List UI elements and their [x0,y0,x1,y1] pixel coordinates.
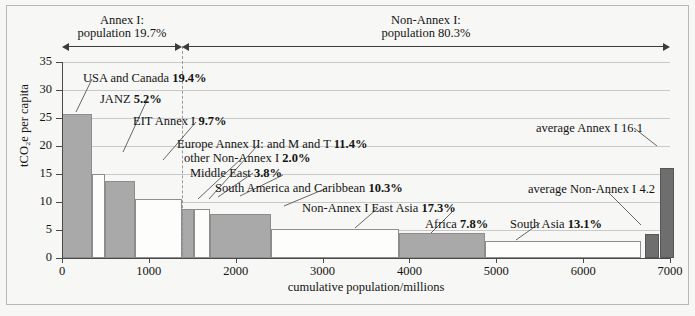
y-tick-5 [56,230,62,231]
bracket-label-line2-annex-i: population 19.7% [62,27,182,40]
callout-africa-share: 7.8% [460,217,488,231]
bar-europe-annex-ii-and-m-and-t [135,199,182,258]
callout-middle-east: Middle East 3.8% [190,167,282,180]
gridline-35 [62,62,670,63]
x-tick-1000 [149,258,150,263]
bar-south-asia [485,241,641,258]
callout-avg-nonannex1: average Non-Annex I 4.2 [528,183,655,196]
x-tick-label-2000: 2000 [206,264,266,279]
callout-usa-canada-share: 19.4% [172,71,206,85]
bracket-arrowhead-left-non-annex-i [182,43,189,51]
callout-usa-canada: USA and Canada 19.4% [83,72,207,85]
bracket-arrowhead-left-annex-i [62,43,69,51]
callout-south-america-share: 10.3% [368,181,402,195]
bracket-line-non-annex-i [188,46,664,47]
bracket-line-annex-i [68,46,176,47]
y-tick-30 [56,90,62,91]
x-tick-4000 [409,258,410,263]
x-axis [62,258,671,259]
bar-other-non-annex-i [182,209,194,258]
x-tick-3000 [323,258,324,263]
callout-europe-share: 11.4% [334,137,368,151]
bar-africa [399,233,485,258]
y-tick-label-5: 5 [10,223,52,236]
x-tick-label-4000: 4000 [379,264,439,279]
callout-janz-share: 5.2% [134,92,162,106]
callout-south-asia-share: 13.1% [568,217,602,231]
x-tick-6000 [583,258,584,263]
x-tick-5000 [496,258,497,263]
bar-eit-annex-i [105,181,135,258]
bracket-label-annex-i: Annex I:population 19.7% [62,14,182,40]
bracket-arrowhead-right-non-annex-i [663,43,670,51]
bar-janz [92,174,106,258]
y-axis [62,62,63,259]
y-tick-35 [56,62,62,63]
x-tick-label-1000: 1000 [119,264,179,279]
bar-average-non-annex-i [645,234,659,258]
bar-average-annex-i [660,168,674,258]
x-tick-label-5000: 5000 [466,264,526,279]
bracket-label-non-annex-i: Non-Annex I:population 80.3% [182,14,670,40]
plot-area: 05101520253035 0100020003000400050006000… [0,0,695,316]
bracket-arrowhead-right-annex-i [175,43,182,51]
x-tick-label-3000: 3000 [293,264,353,279]
x-tick-7000 [670,258,671,263]
callout-middle-east-share: 3.8% [254,166,282,180]
callout-eit-share: 9.7% [198,114,226,128]
callout-south-america: South America and Caribbean 10.3% [215,182,403,195]
x-tick-label-6000: 6000 [553,264,613,279]
callout-other-na1-share: 2.0% [282,151,310,165]
callout-africa: Africa 7.8% [425,218,488,231]
x-axis-title: cumulative population/millions [62,280,670,295]
callout-janz: JANZ 5.2% [100,93,162,106]
callout-eit: EIT Annex I 9.7% [133,115,227,128]
bar-south-america-and-caribbean [210,214,272,258]
x-tick-0 [62,258,63,263]
y-tick-15 [56,174,62,175]
x-tick-label-0: 0 [32,264,92,279]
callout-east-asia-share: 17.3% [421,201,455,215]
callout-avg-annex1: average Annex I 16.1 [536,122,643,135]
bracket-label-line2-non-annex-i: population 80.3% [182,27,670,40]
callout-europe: Europe Annex II: and M and T 11.4% [177,138,368,151]
callout-south-asia: South Asia 13.1% [510,218,602,231]
x-tick-label-7000: 7000 [640,264,695,279]
callout-other-na1: other Non-Annex I 2.0% [184,152,310,165]
y-tick-label-10: 10 [10,195,52,208]
chart-figure: 05101520253035 0100020003000400050006000… [0,0,695,316]
y-tick-25 [56,118,62,119]
x-tick-2000 [236,258,237,263]
gridline-30 [62,90,670,91]
y-tick-10 [56,202,62,203]
y-tick-20 [56,146,62,147]
y-axis-title: tCO₂e per capita [17,56,32,196]
bar-non-annex-i-east-asia [271,229,399,258]
bar-usa-and-canada [62,114,92,258]
gridline-15 [62,174,670,175]
y-tick-label-0: 0 [10,251,52,264]
callout-east-asia: Non-Annex I East Asia 17.3% [302,202,456,215]
bar-middle-east [194,209,210,258]
